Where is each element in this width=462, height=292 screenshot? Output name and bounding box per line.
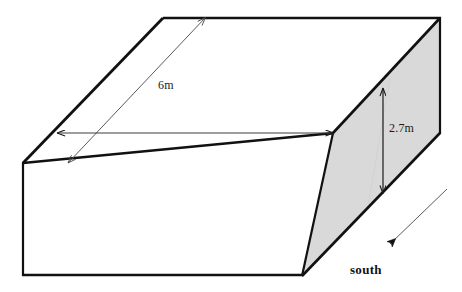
compass-arrow	[390, 189, 447, 244]
cuboid-diagram-figure: 6m 2.7m south	[0, 0, 462, 292]
height-dimension-label: 2.7m	[389, 121, 414, 136]
compass-direction-label: south	[350, 262, 382, 278]
depth-dimension-label: 6m	[158, 78, 174, 93]
cuboid-drawing-canvas	[0, 0, 462, 292]
